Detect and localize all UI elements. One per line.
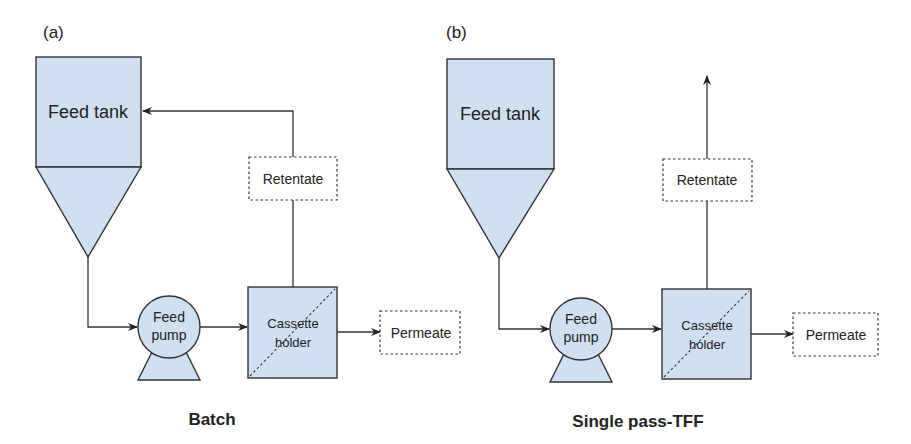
svg-text:holder: holder bbox=[689, 337, 726, 352]
svg-text:Permeate: Permeate bbox=[806, 327, 867, 343]
feed-tank: Feed tank bbox=[447, 59, 554, 258]
panel-letter: (a) bbox=[43, 23, 64, 42]
svg-text:Feed: Feed bbox=[153, 309, 185, 325]
svg-text:Permeate: Permeate bbox=[391, 325, 452, 341]
panel-caption: Batch bbox=[188, 410, 235, 429]
panel-letter: (b) bbox=[446, 23, 467, 42]
svg-text:Cassette: Cassette bbox=[267, 316, 318, 331]
tff-diagram: (a) Feed tank Feed pump Cassette holder … bbox=[0, 0, 911, 444]
cassette-holder: Cassette holder bbox=[248, 287, 337, 378]
panel-caption: Single pass-TFF bbox=[572, 412, 703, 431]
panel-batch: (a) Feed tank Feed pump Cassette holder … bbox=[36, 23, 460, 429]
svg-text:Feed tank: Feed tank bbox=[48, 102, 129, 122]
svg-text:Feed tank: Feed tank bbox=[460, 104, 541, 124]
svg-text:Retentate: Retentate bbox=[677, 172, 738, 188]
retentate-box: Retentate bbox=[249, 157, 337, 200]
svg-text:pump: pump bbox=[563, 329, 598, 345]
feed-pump: Feed pump bbox=[550, 298, 612, 382]
svg-text:Cassette: Cassette bbox=[681, 318, 732, 333]
svg-text:holder: holder bbox=[275, 335, 312, 350]
svg-text:pump: pump bbox=[151, 327, 186, 343]
cassette-holder: Cassette holder bbox=[662, 289, 751, 379]
svg-text:Retentate: Retentate bbox=[263, 171, 324, 187]
feed-pump: Feed pump bbox=[138, 296, 200, 380]
panel-single-pass: (b) Feed tank Feed pump Cassette holder … bbox=[446, 23, 878, 431]
feed-tank: Feed tank bbox=[36, 57, 141, 257]
permeate-box: Permeate bbox=[380, 311, 460, 354]
svg-text:Feed: Feed bbox=[565, 311, 597, 327]
permeate-box: Permeate bbox=[793, 313, 878, 356]
retentate-box: Retentate bbox=[663, 159, 752, 201]
